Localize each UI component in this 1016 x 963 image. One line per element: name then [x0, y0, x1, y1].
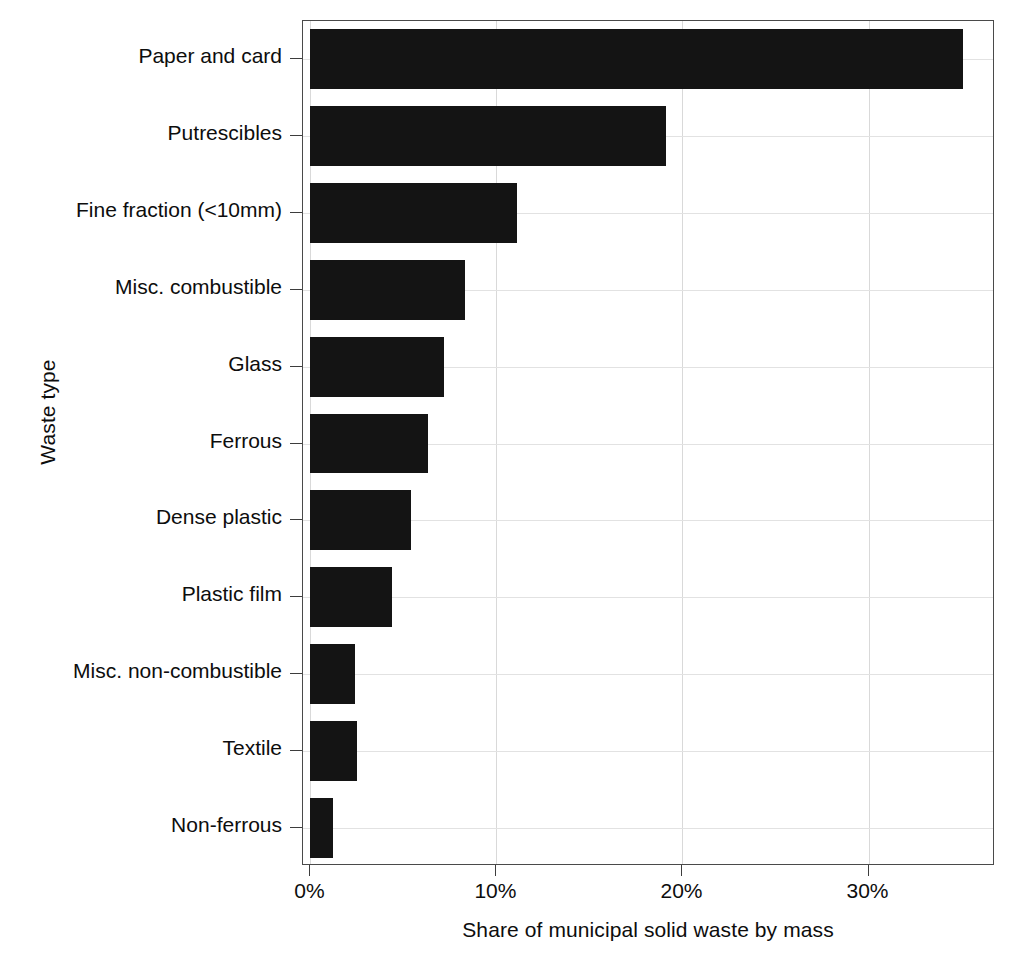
x-axis-title: Share of municipal solid waste by mass	[302, 918, 994, 942]
x-axis-tick-label: 20%	[636, 879, 726, 903]
bar	[310, 567, 392, 627]
y-axis-tick-label: Textile	[0, 736, 282, 760]
y-axis-tick	[290, 366, 302, 367]
y-axis-tick	[290, 443, 302, 444]
y-axis-title: Waste type	[36, 312, 60, 512]
bar	[310, 106, 665, 166]
x-axis-tick	[868, 865, 869, 876]
bar	[310, 260, 464, 320]
y-gridline	[303, 597, 993, 598]
plot-area	[303, 21, 993, 864]
y-axis-tick	[290, 58, 302, 59]
x-axis-tick	[495, 865, 496, 876]
y-axis-tick	[290, 827, 302, 828]
y-axis-tick-label: Paper and card	[0, 44, 282, 68]
bar	[310, 337, 444, 397]
y-axis-tick-label: Glass	[0, 352, 282, 376]
y-axis-tick-label: Plastic film	[0, 582, 282, 606]
x-gridline	[869, 21, 870, 864]
y-axis-tick	[290, 289, 302, 290]
bar	[310, 721, 357, 781]
y-axis-tick-label: Dense plastic	[0, 505, 282, 529]
y-axis-tick	[290, 673, 302, 674]
x-axis-tick	[309, 865, 310, 876]
y-axis-tick	[290, 135, 302, 136]
y-axis-tick-label: Misc. non-combustible	[0, 659, 282, 683]
bar	[310, 798, 332, 858]
y-axis-tick-label: Misc. combustible	[0, 275, 282, 299]
x-axis-tick	[681, 865, 682, 876]
bar	[310, 183, 516, 243]
bar	[310, 644, 355, 704]
y-axis-tick	[290, 596, 302, 597]
bar	[310, 29, 963, 89]
chart-figure: Waste type Share of municipal solid wast…	[0, 0, 1016, 963]
y-gridline	[303, 751, 993, 752]
y-gridline	[303, 674, 993, 675]
x-axis-tick-label: 30%	[823, 879, 913, 903]
x-axis-tick-label: 0%	[264, 879, 354, 903]
y-axis-tick-label: Non-ferrous	[0, 813, 282, 837]
y-axis-tick-label: Putrescibles	[0, 121, 282, 145]
y-gridline	[303, 828, 993, 829]
y-axis-tick-label: Ferrous	[0, 429, 282, 453]
bar	[310, 490, 410, 550]
x-gridline	[682, 21, 683, 864]
plot-panel	[302, 20, 994, 865]
y-axis-tick	[290, 519, 302, 520]
y-axis-tick-label: Fine fraction (<10mm)	[0, 198, 282, 222]
bar	[310, 414, 427, 474]
y-axis-tick	[290, 750, 302, 751]
y-axis-tick	[290, 212, 302, 213]
x-axis-tick-label: 10%	[450, 879, 540, 903]
